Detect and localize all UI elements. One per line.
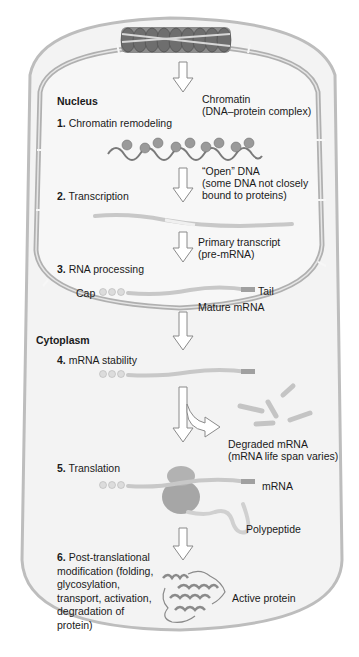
polypeptide-label: Polypeptide xyxy=(246,523,301,535)
chromatin-icon xyxy=(121,27,231,53)
step-label-line: protein) xyxy=(57,619,153,633)
step-number: 4. xyxy=(57,354,66,366)
step-3: 3. RNA processing xyxy=(57,263,144,275)
step-4: 4. mRNA stability xyxy=(57,354,137,366)
cytoplasm-label: Cytoplasm xyxy=(36,334,90,346)
annotation-line: bound to proteins) xyxy=(202,189,308,201)
active-protein-label: Active protein xyxy=(232,592,296,604)
step-label: Translation xyxy=(69,462,121,474)
open-dna-annotation: “Open” DNA (some DNA not closely bound t… xyxy=(202,165,308,201)
mrna-label: mRNA xyxy=(262,480,293,492)
step-label-line: modification (folding, xyxy=(57,565,153,579)
step-number: 6. xyxy=(57,551,66,563)
step-label: mRNA stability xyxy=(69,354,137,366)
annotation-line: (mRNA life span varies) xyxy=(228,450,338,462)
cap-label: Cap xyxy=(76,287,95,299)
step-2: 2. Transcription xyxy=(57,190,129,202)
degraded-mrna-annotation: Degraded mRNA (mRNA life span varies) xyxy=(228,438,338,462)
step-number: 3. xyxy=(57,263,66,275)
step-number: 2. xyxy=(57,190,66,202)
step-1: 1. Chromatin remodeling xyxy=(57,117,172,129)
mature-mrna-label: Mature mRNA xyxy=(198,301,265,313)
step-label: Chromatin remodeling xyxy=(69,117,172,129)
annotation-line: (pre-mRNA) xyxy=(198,248,280,260)
annotation-line: (some DNA not closely xyxy=(202,177,308,189)
step-number: 1. xyxy=(57,117,66,129)
step-label-line: degradation of xyxy=(57,605,153,619)
step-label: RNA processing xyxy=(69,263,144,275)
step-label-line: Post-translational xyxy=(69,551,150,563)
step-label-line: glycosylation, xyxy=(57,578,153,592)
annotation-line: Degraded mRNA xyxy=(228,438,338,450)
annotation-line: (DNA–protein complex) xyxy=(202,105,311,117)
annotation-line: Chromatin xyxy=(202,93,311,105)
step-6: 6. Post-translational modification (fold… xyxy=(57,551,153,632)
tail-label: Tail xyxy=(258,285,274,297)
step-number: 5. xyxy=(57,462,66,474)
annotation-line: Primary transcript xyxy=(198,236,280,248)
chromatin-annotation: Chromatin (DNA–protein complex) xyxy=(202,93,311,117)
primary-transcript-annotation: Primary transcript (pre-mRNA) xyxy=(198,236,280,260)
annotation-line: “Open” DNA xyxy=(202,165,308,177)
step-label: Transcription xyxy=(69,190,129,202)
step-5: 5. Translation xyxy=(57,462,120,474)
nucleus-label: Nucleus xyxy=(57,95,98,107)
step-label-line: transport, activation, xyxy=(57,592,153,606)
